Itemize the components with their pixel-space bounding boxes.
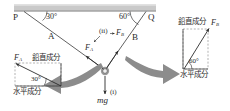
anchor-label-q: Q	[148, 13, 155, 22]
fa-panel-vertical-component: 鉛直成分	[32, 54, 60, 62]
fb-panel-subscript: B	[216, 22, 219, 27]
fa-panel-angle: 30°	[31, 76, 41, 83]
callout-arrow-right	[125, 56, 180, 84]
fb-panel-vertical-component: 鉛直成分	[178, 18, 206, 26]
vector-fb-label: FB	[116, 29, 124, 38]
vector-fb	[107, 51, 119, 69]
callout-arrow-left	[44, 63, 103, 94]
fa-panel-subscript: A	[19, 57, 22, 62]
fa-panel-force-label: FA	[14, 54, 22, 63]
ceiling-angle-60: 60°	[119, 13, 130, 21]
weight-label: mg	[97, 96, 108, 105]
figure-canvas: P Q 30° 60° A B (ii) FB FA mg (i) FA 鉛直成…	[0, 0, 230, 111]
vector-fa-label: FA	[85, 44, 93, 53]
fb-panel-force-label: FB	[211, 19, 219, 28]
fb-subscript: B	[121, 32, 124, 37]
callout-two-label: (ii)	[99, 28, 108, 35]
callout-two-pointer	[94, 36, 100, 42]
ceiling-angle-30: 30°	[46, 13, 57, 21]
fa-subscript: A	[90, 47, 93, 52]
fb-panel-angle: 60°	[189, 58, 199, 65]
fa-panel-horizontal-component: 水平成分	[13, 88, 41, 96]
rope-label-a: A	[48, 32, 55, 41]
ceiling-bar	[14, 5, 156, 12]
callout-one-label: (i)	[110, 89, 117, 96]
anchor-label-p: P	[13, 13, 18, 22]
angle-arc-60	[130, 11, 139, 24]
fb-panel-horizontal-component: 水平成分	[180, 71, 208, 79]
rope-label-b: B	[132, 33, 138, 42]
